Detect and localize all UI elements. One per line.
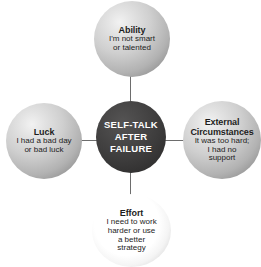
- node-center-title-line-3: FAILURE: [104, 143, 158, 155]
- node-external-circumstances: External Circumstances It was too hard; …: [183, 101, 261, 179]
- node-effort-description: I need to work harder or use a better st…: [106, 218, 156, 254]
- node-center-title-line-2: AFTER: [104, 131, 158, 143]
- node-external-circumstances-title-line-1: External: [190, 117, 253, 127]
- node-luck-description-line-2: or bad luck: [16, 146, 71, 155]
- node-ability: Ability I'm not smart or talented: [94, 1, 170, 77]
- node-center-self-talk-after-failure: SELF-TALK AFTER FAILURE: [96, 101, 166, 173]
- node-center-title-line-1: SELF-TALK: [104, 119, 158, 131]
- node-luck-description: I had a bad day or bad luck: [16, 137, 71, 155]
- node-effort: Effort I need to work harder or use a be…: [92, 194, 171, 267]
- node-luck: Luck I had a bad day or bad luck: [6, 103, 82, 179]
- self-talk-after-failure-diagram: Ability I'm not smart or talented Luck I…: [0, 0, 261, 267]
- node-ability-description-line-2: or talented: [109, 44, 155, 53]
- node-external-circumstances-title: External Circumstances: [190, 117, 253, 137]
- node-ability-description: I'm not smart or talented: [109, 35, 155, 53]
- node-effort-description-line-4: strategy: [106, 244, 156, 253]
- node-center-title: SELF-TALK AFTER FAILURE: [104, 119, 158, 155]
- node-external-circumstances-description-line-3: support: [195, 154, 250, 163]
- node-external-circumstances-description: It was too hard; I had no support: [195, 137, 250, 164]
